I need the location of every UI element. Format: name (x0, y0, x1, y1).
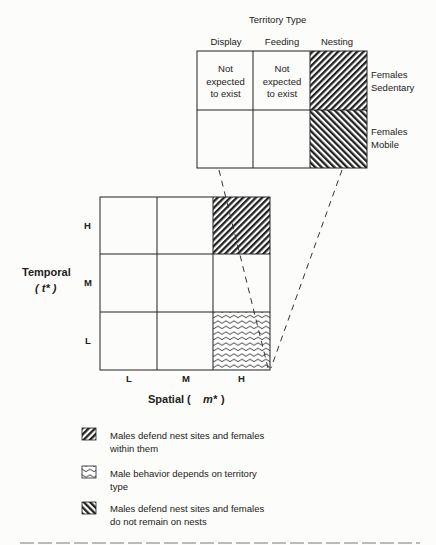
cell-nesting-mobile (310, 110, 367, 168)
row-label-line: Sedentary (371, 81, 414, 94)
y-axis-symbol: ( t* ) (35, 282, 56, 294)
legend-text-line: Males defend nest sites and females (110, 429, 264, 442)
cell-H-H (213, 197, 270, 254)
legend-swatch-hatch-back (82, 502, 96, 514)
y-tick-M: M (84, 277, 92, 289)
legend-text-line: do not remain on nests (110, 515, 264, 528)
cell-text-line: Not (254, 63, 310, 76)
legend-swatches (82, 428, 96, 514)
x-tick-L: L (126, 373, 132, 385)
cell-display-sedentary-text: Not expected to exist (198, 63, 253, 101)
row-label-line: Females (371, 68, 414, 81)
legend-text-line: type (110, 480, 257, 493)
cell-text-line: expected (254, 76, 310, 89)
temporal-spatial-matrix (100, 197, 270, 370)
cell-feeding-sedentary-text: Not expected to exist (254, 63, 310, 101)
row-label-line: Mobile (371, 138, 407, 151)
legend-item-hatch-forward: Males defend nest sites and females with… (110, 429, 264, 455)
cell-nesting-sedentary (310, 51, 367, 110)
legend-item-hatch-back: Males defend nest sites and females do n… (110, 502, 264, 528)
y-tick-L: L (85, 335, 91, 347)
legend-text-line: Males defend nest sites and females (110, 502, 264, 515)
legend-item-wavy: Male behavior depends on territory type (110, 467, 257, 493)
x-axis-label: Spatial ( (148, 393, 191, 405)
row-label-line: Females (371, 125, 407, 138)
column-header-feeding: Feeding (258, 36, 306, 48)
cell-text-line: to exist (198, 88, 253, 101)
cell-text-line: to exist (254, 88, 310, 101)
y-tick-H: H (84, 220, 91, 232)
x-axis-symbol: m* (203, 393, 217, 405)
column-header-nesting: Nesting (313, 36, 361, 48)
legend-swatch-wavy (82, 466, 96, 478)
legend-text-line: within them (110, 442, 264, 455)
column-header-display: Display (204, 36, 248, 48)
territory-type-title: Territory Type (249, 14, 306, 26)
cell-text-line: Not (198, 63, 253, 76)
legend-swatch-hatch-forward (82, 428, 96, 440)
row-label-females-mobile: Females Mobile (371, 125, 407, 151)
x-tick-M: M (182, 373, 190, 385)
x-tick-H: H (238, 373, 245, 385)
y-axis-label: Temporal (22, 266, 71, 278)
x-axis-close: ) (221, 393, 225, 405)
cell-text-line: expected (198, 76, 253, 89)
legend-text-line: Male behavior depends on territory (110, 467, 257, 480)
row-label-females-sedentary: Females Sedentary (371, 68, 414, 94)
